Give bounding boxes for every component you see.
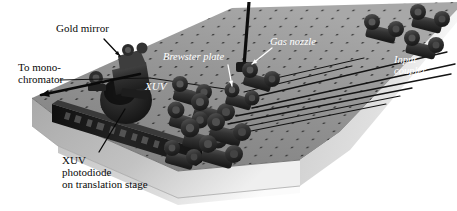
label-gold-mirror: Gold mirror [56,23,109,35]
label-xuv-photodiode: XUV photodiode on translation stage [62,155,148,191]
label-xuv-beam: XUV [145,81,166,93]
label-brewster-plate: Brewster plate [163,51,224,62]
label-gas-nozzle: Gas nozzle [270,36,316,47]
label-to-monochromator: To mono- chromator [18,62,63,86]
figure-optical-table-photograph: Gold mirror To mono- chromator Brewster … [0,0,457,211]
label-input-coupler: Input coupler [394,54,426,77]
